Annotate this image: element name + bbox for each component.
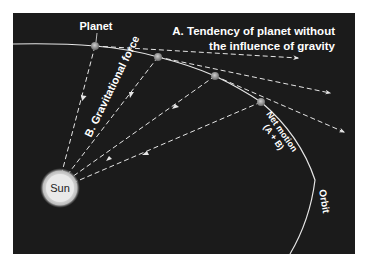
planet-position-3 [211,72,219,80]
tangent-arrow-2 [158,57,330,93]
sun-label: Sun [50,182,70,194]
orbit-label: Orbit [317,188,332,214]
gravity-arrow-head-extra [106,156,112,161]
planet-label-pointer [96,33,97,42]
gravity-arrow-3-head [172,104,179,109]
tendency-label-line1: A. Tendency of planet without [172,25,335,37]
gravity-arrow-2-head [129,92,134,98]
orbit-path [13,44,315,254]
orbit-diagram: Planet A. Tendency of planet without the… [0,0,366,265]
planet-position-4 [257,98,265,106]
gravity-arrow-1 [62,46,95,172]
planet-position-1 [91,42,99,50]
gravitational-force-label: B. Gravitational force [82,34,142,139]
planet-label: Planet [79,20,112,32]
tendency-label-line2: the influence of gravity [209,40,335,52]
planet-position-2 [154,53,162,61]
